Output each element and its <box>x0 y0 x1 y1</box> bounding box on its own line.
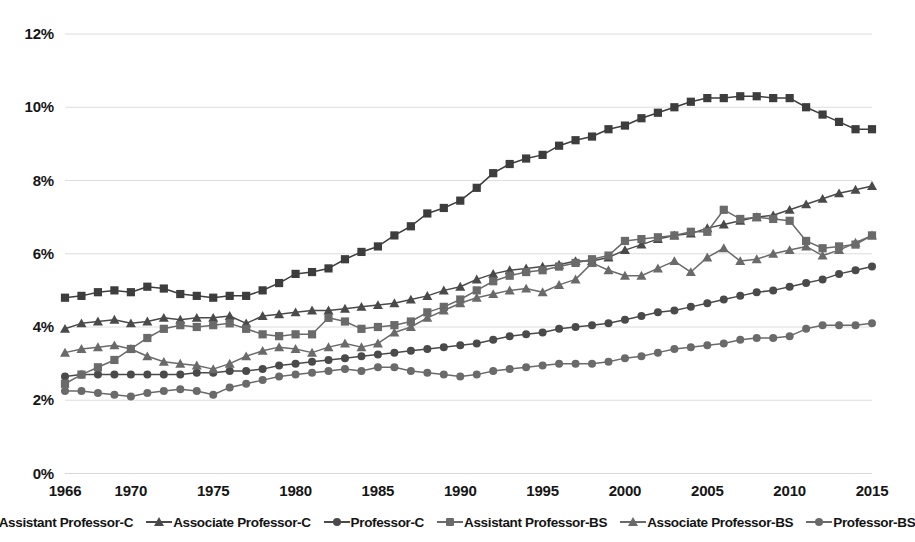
legend-label: Professor-C <box>351 515 424 530</box>
data-point <box>621 121 629 129</box>
data-point <box>143 389 151 397</box>
legend-item-associate-professor-c[interactable]: Associate Professor-C <box>146 515 310 530</box>
data-point <box>110 356 118 364</box>
x-tick-label: 2005 <box>677 482 737 499</box>
triangle-marker-icon <box>146 515 172 529</box>
data-point <box>440 371 448 379</box>
data-point <box>209 294 217 302</box>
gridlines <box>65 34 872 474</box>
data-point <box>259 286 267 294</box>
data-point <box>719 243 729 252</box>
data-point <box>802 103 810 111</box>
legend-item-assistant-professor-c[interactable]: Assistant Professor-C <box>0 515 133 530</box>
data-point <box>341 354 349 362</box>
data-point <box>473 339 481 347</box>
data-point <box>687 228 695 236</box>
data-point <box>753 288 761 296</box>
data-point <box>539 361 547 369</box>
data-point <box>159 313 169 322</box>
legend-item-associate-professor-bs[interactable]: Associate Professor-BS <box>620 515 793 530</box>
data-point <box>769 94 777 102</box>
legend-item-professor-bs[interactable]: Professor-BS <box>806 515 915 530</box>
series-line <box>65 210 872 384</box>
data-point <box>357 367 365 375</box>
data-point <box>308 358 316 366</box>
data-point <box>94 288 102 296</box>
x-tick-label: 2000 <box>595 482 655 499</box>
data-point <box>703 299 711 307</box>
data-point <box>669 256 679 265</box>
data-point <box>357 325 365 333</box>
data-point <box>522 330 530 338</box>
legend-item-professor-c[interactable]: Professor-C <box>324 515 424 530</box>
data-point <box>506 365 514 373</box>
data-point <box>142 351 152 360</box>
data-point <box>160 387 168 395</box>
data-point <box>407 222 415 230</box>
data-point <box>868 263 876 271</box>
data-point <box>654 308 662 316</box>
data-point <box>654 349 662 357</box>
data-point <box>143 334 151 342</box>
data-point <box>571 259 579 267</box>
data-point <box>160 325 168 333</box>
data-point <box>456 197 464 205</box>
data-point <box>786 332 794 340</box>
data-point <box>275 372 283 380</box>
data-point <box>143 371 151 379</box>
data-point <box>653 264 663 273</box>
series-assistant-professor-c <box>61 92 876 302</box>
data-point <box>357 248 365 256</box>
data-point <box>588 132 596 140</box>
data-point <box>868 125 876 133</box>
data-point <box>242 367 250 375</box>
data-point <box>456 341 464 349</box>
data-point <box>423 369 431 377</box>
data-point <box>357 352 365 360</box>
data-point <box>489 336 497 344</box>
data-point <box>670 307 678 315</box>
data-point <box>440 343 448 351</box>
chart-legend: Assistant Professor-CAssociate Professor… <box>0 508 887 536</box>
data-point <box>61 387 69 395</box>
data-point <box>753 334 761 342</box>
data-point <box>407 367 415 375</box>
data-point <box>654 233 662 241</box>
data-point <box>374 242 382 250</box>
data-point <box>555 325 563 333</box>
data-point <box>390 363 398 371</box>
data-point <box>341 317 349 325</box>
data-point <box>604 251 612 259</box>
x-tick-label: 1970 <box>101 482 161 499</box>
data-point <box>588 321 596 329</box>
data-point <box>291 330 299 338</box>
data-point <box>374 363 382 371</box>
data-point <box>193 387 201 395</box>
data-point <box>521 284 531 293</box>
data-point <box>292 360 300 368</box>
data-point <box>654 109 662 117</box>
data-point <box>94 371 102 379</box>
data-point <box>292 371 300 379</box>
x-tick-label: 1990 <box>430 482 490 499</box>
data-point <box>506 332 514 340</box>
legend-label: Assistant Professor-C <box>0 515 133 530</box>
data-point <box>242 380 250 388</box>
data-point <box>555 262 563 270</box>
data-point <box>720 296 728 304</box>
y-tick-label: 2% <box>8 391 54 408</box>
data-point <box>61 380 69 388</box>
data-point <box>506 160 514 168</box>
series-lines <box>60 92 877 400</box>
data-point <box>407 347 415 355</box>
data-point <box>275 361 283 369</box>
data-point <box>341 365 349 373</box>
data-point <box>786 94 794 102</box>
data-point <box>109 340 119 349</box>
legend-item-assistant-professor-bs[interactable]: Assistant Professor-BS <box>437 515 607 530</box>
data-point <box>522 154 530 162</box>
data-point <box>193 369 201 377</box>
y-tick-label: 12% <box>8 25 54 42</box>
data-point <box>291 270 299 278</box>
x-tick-label: 1966 <box>35 482 95 499</box>
